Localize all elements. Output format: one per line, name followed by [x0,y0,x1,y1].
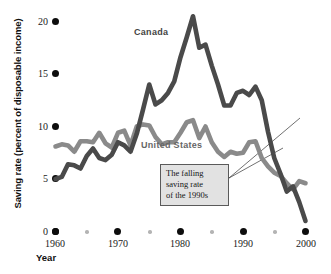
callout-line-1: The falling [166,168,224,179]
saving-rate-chart: Saving rate (percent of disposable incom… [0,0,331,274]
falling-saving-rate-callout: The falling saving rate of the 1990s [160,164,229,206]
callout-line-3: of the 1990s [166,190,224,201]
plot-area [0,0,331,274]
leader-lines [229,118,300,178]
callout-line-2: saving rate [166,179,224,190]
series-label-canada: Canada [134,27,168,37]
series-label-united-states: United States [141,140,202,150]
